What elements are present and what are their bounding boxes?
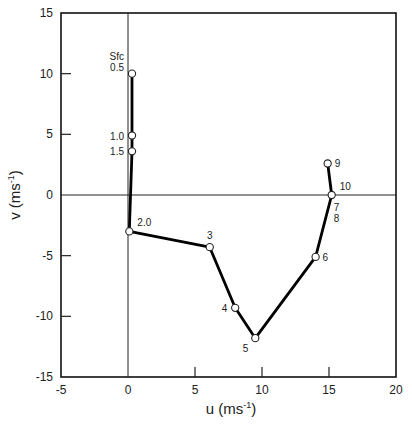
hodograph-point (324, 160, 331, 167)
hodograph-point (128, 132, 135, 139)
hodograph-point (206, 244, 213, 251)
point-label: 1.5 (110, 146, 124, 157)
point-label: 2.0 (137, 217, 151, 228)
point-label: 3 (207, 230, 213, 241)
hodograph-point (252, 335, 259, 342)
y-tick-label: 0 (46, 188, 53, 202)
y-tick-label: 15 (40, 6, 54, 20)
hodograph-point (128, 148, 135, 155)
hodograph-point (328, 191, 335, 198)
y-tick-label: 5 (46, 127, 53, 141)
point-label: Sfc (110, 51, 124, 62)
hodograph-point (312, 253, 319, 260)
hodograph-line (129, 74, 331, 339)
x-tick-label: 0 (125, 383, 132, 397)
point-label: 10 (340, 181, 352, 192)
point-label: 4 (222, 303, 228, 314)
x-tick-label: 10 (255, 383, 269, 397)
point-label: 8 (334, 213, 340, 224)
x-axis-label: u (ms-1) (206, 400, 257, 417)
x-tick-label: 15 (322, 383, 336, 397)
hodograph-line-layer (129, 74, 331, 339)
hodograph-points-layer: Sfc0.51.01.52.0345678910 (110, 51, 352, 355)
point-label: 9 (335, 158, 341, 169)
x-tick-label: 5 (192, 383, 199, 397)
y-tick-label: -10 (36, 309, 54, 323)
hodograph-point (126, 228, 133, 235)
hodograph-point (232, 304, 239, 311)
hodograph-chart: -505101520-15-10-5051015 Sfc0.51.01.52.0… (0, 0, 412, 425)
axes: -505101520-15-10-5051015 (36, 6, 403, 397)
point-label: 6 (323, 252, 329, 263)
y-axis-label: v (ms-1) (6, 170, 23, 220)
x-tick-label: -5 (56, 383, 67, 397)
x-tick-label: 20 (389, 383, 403, 397)
hodograph-point (128, 70, 135, 77)
y-tick-label: -15 (36, 370, 54, 384)
point-label: 5 (243, 343, 249, 354)
y-tick-label: -5 (42, 249, 53, 263)
point-label: 7 (334, 202, 340, 213)
point-label: 0.5 (110, 62, 124, 73)
point-label: 1.0 (110, 131, 124, 142)
y-tick-label: 10 (40, 67, 54, 81)
